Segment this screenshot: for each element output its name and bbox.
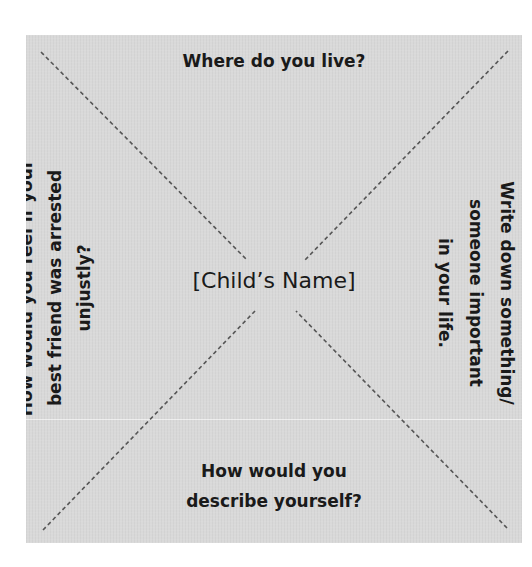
- prompt-right-line-3: in your life.: [429, 153, 460, 433]
- prompt-bottom: How would you describe yourself?: [26, 456, 522, 516]
- prompt-bottom-line-2: describe yourself?: [26, 486, 522, 516]
- prompt-bottom-line-1: How would you: [26, 456, 522, 486]
- child-name-placeholder: [Child’s Name]: [26, 268, 522, 293]
- prompt-right: Write down something/ someone important …: [426, 153, 522, 433]
- prompt-right-line-1: Write down something/: [491, 153, 522, 433]
- prompt-top: Where do you live?: [26, 49, 522, 74]
- fortune-teller-square: Where do you live? How would you feel if…: [26, 35, 522, 543]
- prompt-right-line-2: someone important: [460, 153, 491, 433]
- prompt-top-line-1: Where do you live?: [26, 49, 522, 74]
